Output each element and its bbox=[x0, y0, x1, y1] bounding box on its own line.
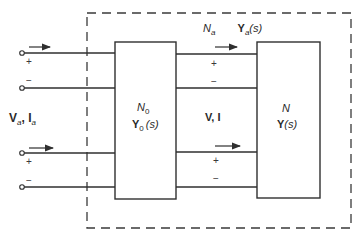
block-n-name: N bbox=[282, 102, 290, 114]
network-name: N bbox=[203, 22, 211, 34]
minus-sign: − bbox=[26, 76, 32, 86]
admittance-arg: (s) bbox=[249, 22, 262, 34]
admittance-symbol: Y bbox=[238, 22, 245, 34]
current-subscript: a bbox=[31, 118, 35, 127]
minus-sign: − bbox=[211, 77, 217, 87]
block-n0-letter: N bbox=[137, 101, 145, 113]
terminal-icon bbox=[20, 185, 25, 190]
network-diagram bbox=[0, 0, 361, 239]
block-n0-subscript: 0 bbox=[145, 107, 149, 116]
middle-port-label: V, I bbox=[205, 111, 221, 123]
voltage-symbol: V bbox=[9, 111, 17, 125]
minus-sign: − bbox=[26, 176, 32, 186]
block-n0-admittance: Y0(s) bbox=[132, 118, 159, 133]
left-port-label: Va, Ia bbox=[9, 111, 36, 127]
admittance-arg: (s) bbox=[284, 118, 297, 130]
terminal-icon bbox=[20, 86, 25, 91]
admittance-subscript: 0 bbox=[139, 124, 143, 133]
plus-sign: + bbox=[213, 156, 219, 166]
plus-sign: + bbox=[26, 157, 32, 167]
enclosure-label: Na Ya(s) bbox=[203, 22, 262, 37]
network-subscript: a bbox=[211, 28, 215, 37]
block-n-admittance: Y(s) bbox=[277, 118, 297, 130]
plus-sign: + bbox=[26, 57, 32, 67]
admittance-arg: (s) bbox=[146, 118, 159, 130]
minus-sign: − bbox=[213, 174, 219, 184]
plus-sign: + bbox=[211, 59, 217, 69]
terminal-icon bbox=[20, 51, 25, 56]
terminal-icon bbox=[20, 151, 25, 156]
block-n0-name: N0 bbox=[137, 101, 149, 116]
